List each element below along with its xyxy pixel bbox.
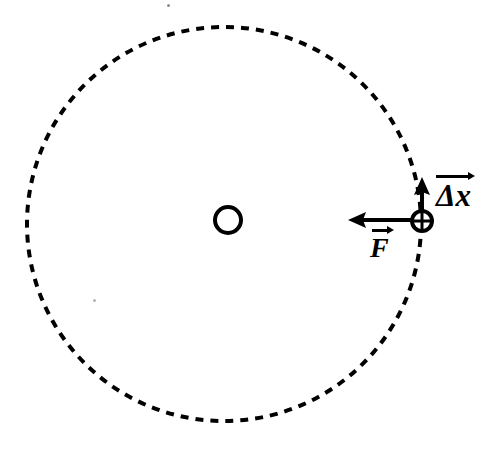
displacement-label-text: Δx bbox=[436, 180, 476, 211]
physics-diagram-canvas: Δx F bbox=[0, 0, 488, 455]
scan-speck-top bbox=[167, 4, 170, 7]
displacement-vector-label: Δx bbox=[436, 172, 476, 211]
diagram-svg bbox=[0, 0, 488, 455]
central-mass bbox=[215, 207, 241, 233]
force-label-text: F bbox=[370, 234, 394, 262]
vector-overarrow-icon bbox=[372, 226, 394, 233]
vector-overarrow-icon bbox=[436, 172, 476, 179]
scan-speck-left bbox=[93, 299, 96, 302]
force-vector-label: F bbox=[370, 226, 394, 262]
